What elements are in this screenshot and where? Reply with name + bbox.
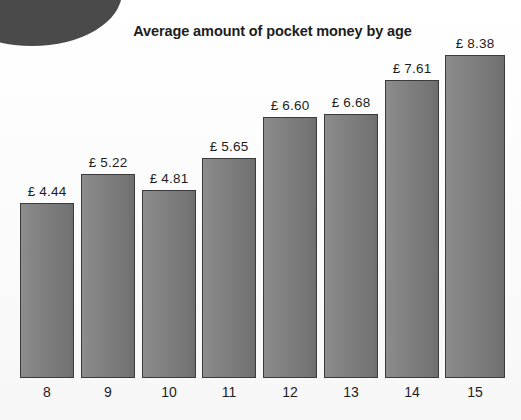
chart-canvas: Average amount of pocket money by age £ … xyxy=(0,0,521,420)
bar-value-label: £ 5.65 xyxy=(210,139,249,154)
bar-group: £ 6.6813 xyxy=(324,114,378,378)
bar-group: £ 5.229 xyxy=(81,174,135,378)
bar-group: £ 7.6114 xyxy=(385,80,439,378)
bar-value-label: £ 4.44 xyxy=(28,184,67,199)
bar-value-label: £ 5.22 xyxy=(89,155,128,170)
bar-group: £ 4.8110 xyxy=(142,190,196,378)
bar-chart-plot-area: £ 4.448£ 5.229£ 4.8110£ 5.6511£ 6.6012£ … xyxy=(0,0,521,420)
x-axis-tick-label: 8 xyxy=(43,384,51,400)
bar-group: £ 4.448 xyxy=(20,203,74,378)
bar-group: £ 8.3815 xyxy=(445,55,505,378)
x-axis-tick-label: 15 xyxy=(467,384,483,400)
x-axis-tick-label: 9 xyxy=(104,384,112,400)
x-axis-tick-label: 13 xyxy=(343,384,359,400)
bar-group: £ 5.6511 xyxy=(202,158,256,378)
bar-value-label: £ 4.81 xyxy=(150,171,189,186)
bar xyxy=(324,114,378,378)
bar xyxy=(385,80,439,378)
x-axis-tick-label: 11 xyxy=(222,384,237,400)
bar xyxy=(263,117,317,378)
bar xyxy=(81,174,135,378)
x-axis-tick-label: 10 xyxy=(161,384,177,400)
bar xyxy=(202,158,256,378)
x-axis-tick-label: 12 xyxy=(282,384,298,400)
bar xyxy=(20,203,74,378)
bar xyxy=(445,55,505,378)
bar xyxy=(142,190,196,378)
bar-value-label: £ 6.60 xyxy=(271,98,310,113)
bar-value-label: £ 7.61 xyxy=(393,61,432,76)
bar-value-label: £ 8.38 xyxy=(456,36,495,51)
bar-value-label: £ 6.68 xyxy=(332,95,371,110)
bar-group: £ 6.6012 xyxy=(263,117,317,378)
x-axis-tick-label: 14 xyxy=(404,384,420,400)
